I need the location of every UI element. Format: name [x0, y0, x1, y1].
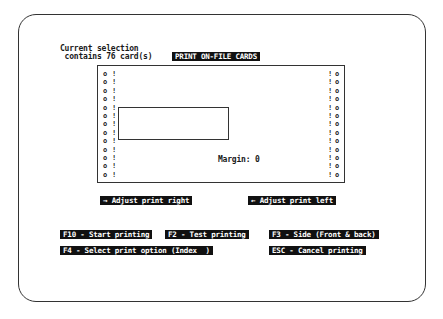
sprocket-hole-icon: o	[103, 137, 107, 145]
perforation-mark-icon: !	[112, 129, 116, 137]
sprocket-hole-icon: o	[335, 112, 339, 120]
sprocket-hole-icon: o	[103, 70, 107, 78]
perforation-mark-icon: !	[112, 146, 116, 154]
adjust-print-left-button[interactable]: ← Adjust print left	[248, 196, 336, 205]
perforation-mark-icon: !	[328, 162, 332, 170]
perforation-mark-icon: !	[328, 154, 332, 162]
sprocket-hole-icon: o	[103, 154, 107, 162]
sprocket-hole-icon: o	[103, 95, 107, 103]
perforation-mark-icon: !	[328, 112, 332, 120]
perforation-mark-icon: !	[328, 78, 332, 86]
selection-count-label: contains 76 card(s)	[60, 53, 152, 61]
sprocket-hole-icon: o	[103, 146, 107, 154]
perforation-mark-icon: !	[328, 95, 332, 103]
perforation-mark-icon: !	[112, 137, 116, 145]
sprocket-hole-icon: o	[335, 120, 339, 128]
perforation-mark-icon: !	[112, 171, 116, 179]
sprocket-hole-icon: o	[335, 162, 339, 170]
left-perforation: !!!!!!!!!!!!!	[112, 70, 116, 179]
select-print-option-button[interactable]: F4 - Select print option (Index )	[60, 246, 213, 255]
sprocket-hole-icon: o	[335, 78, 339, 86]
page-title: PRINT ON-FILE CARDS	[172, 52, 260, 61]
perforation-mark-icon: !	[112, 78, 116, 86]
sprocket-hole-icon: o	[103, 129, 107, 137]
perforation-mark-icon: !	[112, 70, 116, 78]
sprocket-hole-icon: o	[103, 171, 107, 179]
sprocket-hole-icon: o	[103, 104, 107, 112]
perforation-mark-icon: !	[112, 154, 116, 162]
sprocket-hole-icon: o	[103, 112, 107, 120]
right-perforation: !!!!!!!!!!!!!	[328, 70, 332, 179]
perforation-mark-icon: !	[112, 87, 116, 95]
margin-value: Margin: 0	[218, 156, 260, 164]
sprocket-hole-icon: o	[335, 129, 339, 137]
start-printing-button[interactable]: F10 - Start printing	[60, 230, 152, 239]
cancel-printing-button[interactable]: ESC - Cancel printing	[269, 246, 366, 255]
card-print-area	[118, 107, 229, 140]
sprocket-hole-icon: o	[103, 120, 107, 128]
sprocket-hole-icon: o	[335, 87, 339, 95]
sprocket-hole-icon: o	[335, 154, 339, 162]
test-printing-button[interactable]: F2 - Test printing	[165, 230, 249, 239]
perforation-mark-icon: !	[112, 162, 116, 170]
sprocket-hole-icon: o	[335, 146, 339, 154]
perforation-mark-icon: !	[112, 112, 116, 120]
left-sprocket-holes: ooooooooooooo	[103, 70, 107, 179]
perforation-mark-icon: !	[328, 171, 332, 179]
sprocket-hole-icon: o	[335, 171, 339, 179]
perforation-mark-icon: !	[112, 104, 116, 112]
perforation-mark-icon: !	[328, 87, 332, 95]
right-sprocket-holes: ooooooooooooo	[335, 70, 339, 179]
perforation-mark-icon: !	[112, 120, 116, 128]
perforation-mark-icon: !	[328, 104, 332, 112]
side-front-back-button[interactable]: F3 - Side (Front & back)	[269, 230, 379, 239]
sprocket-hole-icon: o	[335, 70, 339, 78]
sprocket-hole-icon: o	[335, 95, 339, 103]
perforation-mark-icon: !	[328, 129, 332, 137]
adjust-print-right-button[interactable]: → Adjust print right	[100, 196, 192, 205]
perforation-mark-icon: !	[112, 95, 116, 103]
sprocket-hole-icon: o	[103, 78, 107, 86]
perforation-mark-icon: !	[328, 137, 332, 145]
sprocket-hole-icon: o	[103, 87, 107, 95]
perforation-mark-icon: !	[328, 120, 332, 128]
perforation-mark-icon: !	[328, 70, 332, 78]
perforation-mark-icon: !	[328, 146, 332, 154]
sprocket-hole-icon: o	[335, 137, 339, 145]
sprocket-hole-icon: o	[335, 104, 339, 112]
sprocket-hole-icon: o	[103, 162, 107, 170]
